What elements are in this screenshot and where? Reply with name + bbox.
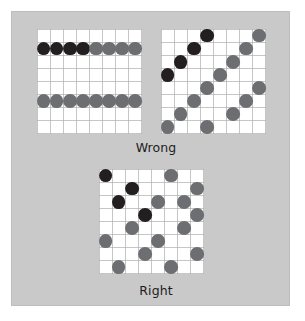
caption-wrong: Wrong (101, 141, 211, 155)
grid-wrong-right (161, 29, 266, 134)
figure-panel: Wrong Right (11, 11, 290, 306)
grid-wrong-left (37, 29, 142, 134)
figure-root: Wrong Right (0, 0, 305, 321)
grid-lines-wrong-right (161, 29, 266, 134)
caption-right: Right (101, 284, 211, 298)
grid-lines-wrong-left (37, 29, 142, 134)
grid-right-bottom (99, 169, 204, 274)
grid-lines-right-bottom (99, 169, 204, 274)
